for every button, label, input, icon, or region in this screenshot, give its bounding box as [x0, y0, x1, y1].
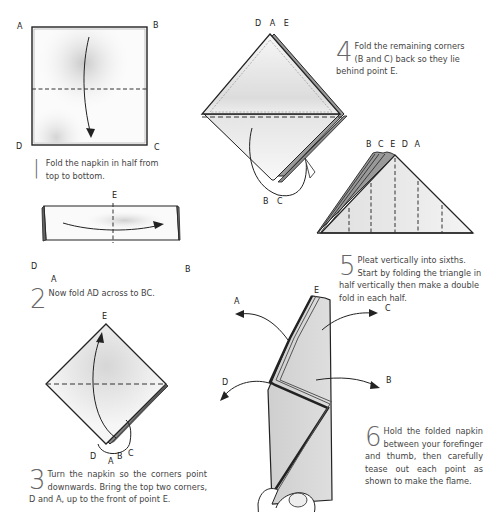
- step-4-text: Fold the remaining corners (B and C) bac…: [336, 41, 465, 76]
- step-3-text: Turn the napkin so the corners point dow…: [29, 469, 207, 504]
- corner-label-a: A: [51, 275, 57, 284]
- corner-label-b: B: [263, 197, 269, 206]
- step-3-caption: 3 Turn the napkin so the corners point d…: [29, 468, 207, 506]
- step-4-caption: 4 Fold the remaining corners (B and C) b…: [336, 40, 471, 78]
- step-4-number: 4: [336, 41, 353, 63]
- corner-label-b: B: [185, 265, 191, 274]
- corner-label-d: D: [16, 142, 23, 151]
- step-3-number: 3: [29, 469, 46, 491]
- step-5-pleated-triangle-diagram: [315, 150, 485, 250]
- corner-labels-dae: D A E: [255, 19, 292, 28]
- step-2-caption: 2 Now fold AD across to BC.: [30, 287, 200, 310]
- step-5-number: 5: [339, 255, 356, 277]
- step-1-number: |: [33, 157, 40, 177]
- step-1-text: Fold the napkin in half from top to bott…: [46, 158, 159, 181]
- step-6-text: Hold the folded napkin between your fore…: [365, 426, 483, 486]
- step-2-text: Now fold AD across to BC.: [49, 288, 155, 298]
- corner-label-c: C: [128, 449, 134, 458]
- corner-label-a: A: [108, 457, 114, 466]
- corner-label-a: A: [17, 22, 23, 31]
- step-1-square-napkin-diagram: [30, 25, 160, 150]
- step-2-rectangle-napkin-diagram: [38, 198, 188, 268]
- step-3-diamond-napkin-diagram: [40, 320, 180, 460]
- corner-label-b: B: [117, 452, 123, 461]
- corner-labels-bceda: B C E D A: [366, 140, 422, 149]
- step-2-number: 2: [30, 288, 47, 310]
- corner-label-d: D: [90, 452, 97, 461]
- step-6-caption: 6 Hold the folded napkin between your fo…: [365, 425, 483, 488]
- corner-label-d: D: [31, 262, 38, 271]
- corner-label-c: C: [277, 197, 283, 206]
- step-1-caption: | Fold the napkin in half from top to bo…: [33, 157, 168, 182]
- step-6-number: 6: [365, 426, 382, 448]
